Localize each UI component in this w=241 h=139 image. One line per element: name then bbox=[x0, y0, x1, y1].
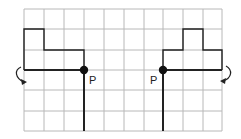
left-figure bbox=[24, 29, 84, 131]
right-pivot-label: P bbox=[150, 75, 157, 86]
right-pivot-point bbox=[159, 66, 167, 74]
right-figure bbox=[163, 29, 222, 131]
left-pivot-label: P bbox=[89, 75, 96, 86]
left-pivot-point bbox=[80, 66, 88, 74]
grid-diagram bbox=[0, 0, 241, 139]
